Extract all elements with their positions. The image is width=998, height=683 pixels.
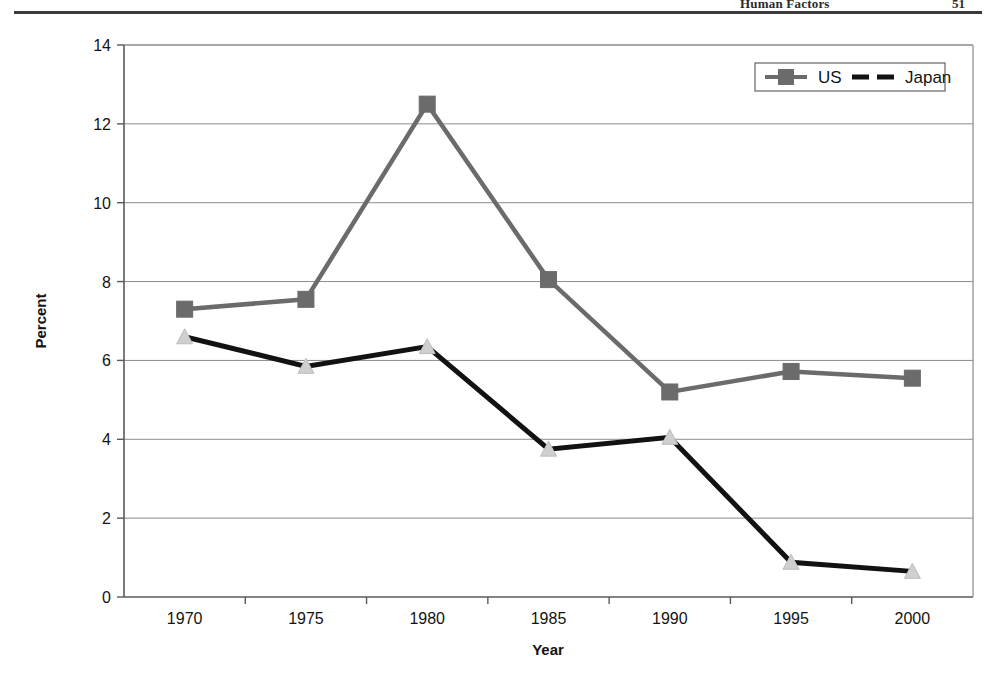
marker-us-1975 — [298, 291, 314, 307]
legend-marker-us — [778, 69, 794, 85]
x-tick-label-1985: 1985 — [531, 610, 567, 627]
legend-label-us: US — [818, 68, 842, 87]
x-axis-tick-labels: 1970197519801985199019952000 — [167, 610, 930, 627]
y-tick-label-4: 4 — [102, 431, 111, 448]
y-tick-label-10: 10 — [93, 195, 111, 212]
y-tick-label-6: 6 — [102, 352, 111, 369]
marker-us-2000 — [904, 370, 920, 386]
y-axis-ticks — [117, 45, 124, 597]
y-tick-label-0: 0 — [102, 589, 111, 606]
y-axis-tick-labels: 02468101214 — [93, 37, 111, 606]
y-tick-label-2: 2 — [102, 510, 111, 527]
plot-area-background — [124, 45, 973, 597]
x-tick-label-1995: 1995 — [773, 610, 809, 627]
x-tick-label-1970: 1970 — [167, 610, 203, 627]
x-tick-label-1975: 1975 — [288, 610, 324, 627]
chart-legend[interactable]: USJapan — [755, 63, 951, 91]
marker-us-1990 — [662, 384, 678, 400]
marker-us-1980 — [419, 96, 435, 112]
chart-canvas: 02468101214 1970197519801985199019952000… — [0, 0, 998, 683]
line-chart-figure: 02468101214 1970197519801985199019952000… — [0, 0, 998, 683]
marker-us-1985 — [541, 272, 557, 288]
marker-us-1970 — [177, 301, 193, 317]
x-tick-label-1980: 1980 — [409, 610, 445, 627]
legend-label-japan: Japan — [905, 68, 951, 87]
y-tick-label-8: 8 — [102, 274, 111, 291]
x-axis-title: Year — [532, 641, 564, 658]
y-axis-title: Percent — [32, 293, 49, 348]
x-axis-ticks — [245, 597, 851, 604]
marker-us-1995 — [783, 363, 799, 379]
y-tick-label-12: 12 — [93, 116, 111, 133]
x-tick-label-2000: 2000 — [895, 610, 931, 627]
y-tick-label-14: 14 — [93, 37, 111, 54]
x-tick-label-1990: 1990 — [652, 610, 688, 627]
